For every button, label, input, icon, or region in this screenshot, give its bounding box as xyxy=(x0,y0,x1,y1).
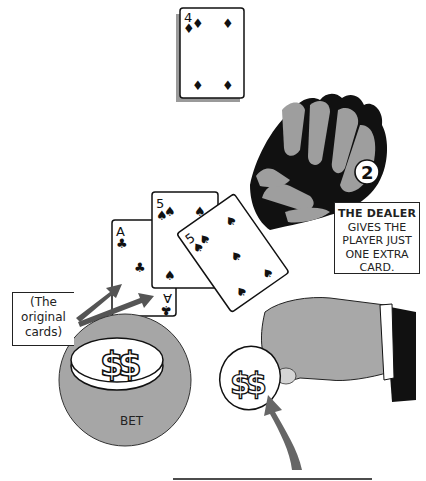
dollar-icon: $ xyxy=(246,366,267,401)
deck-card-4-diamonds: 4 ♦ ♦ ♦ ♦ ♦ xyxy=(176,8,244,102)
step-number-badge: 2 xyxy=(355,160,379,184)
dealer-caption-box: THE DEALER GIVES THE PLAYER JUST ONE EXT… xyxy=(334,202,420,274)
diamond-icon: ♦ xyxy=(192,16,204,31)
dealer-caption-line: ONE EXTRA xyxy=(335,248,419,262)
diamond-icon: ♦ xyxy=(222,16,234,31)
note-line: original xyxy=(13,310,74,325)
dealer-caption-line: GIVES THE xyxy=(335,221,419,235)
bet-label: BET xyxy=(120,414,143,428)
spade-icon: ♠ xyxy=(164,204,176,219)
diamond-icon: ♦ xyxy=(192,78,204,93)
dealer-caption-line: PLAYER JUST xyxy=(335,234,419,248)
step-number: 2 xyxy=(361,162,374,183)
note-line: cards) xyxy=(13,325,74,340)
dealer-caption-heading: THE DEALER xyxy=(335,207,419,221)
club-icon: ♣ xyxy=(134,260,146,275)
card-rank: A xyxy=(163,291,172,306)
club-icon: ♣ xyxy=(116,236,128,251)
diamond-icon: ♦ xyxy=(222,78,234,93)
note-line: (The xyxy=(13,295,74,310)
dollar-icon: $ xyxy=(118,344,142,384)
player-hand xyxy=(261,298,416,402)
dealer-caption-line: CARD. xyxy=(335,261,419,275)
arrow-to-coin xyxy=(264,395,302,470)
spade-icon: ♠ xyxy=(164,268,176,283)
original-cards-note: (The original cards) xyxy=(12,292,74,346)
